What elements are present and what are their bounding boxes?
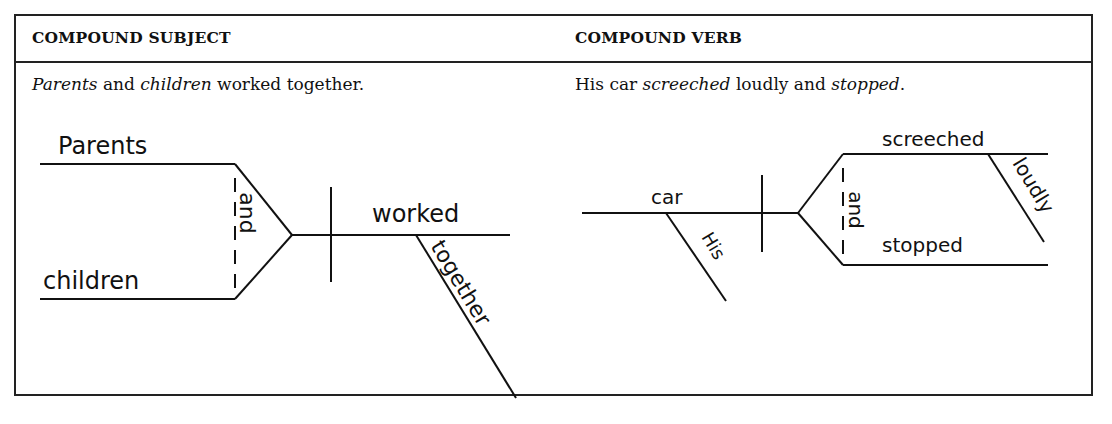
verb-stopped: stopped (882, 233, 963, 257)
compound-verb-diagram: car His screeched loudly and stopped (0, 0, 1112, 424)
modifier-his: His (698, 228, 730, 263)
verb-screeched: screeched (882, 127, 984, 151)
modifier-loudly: loudly (1008, 153, 1060, 217)
conjunction-and: and (844, 191, 868, 229)
subject-car: car (651, 185, 683, 209)
